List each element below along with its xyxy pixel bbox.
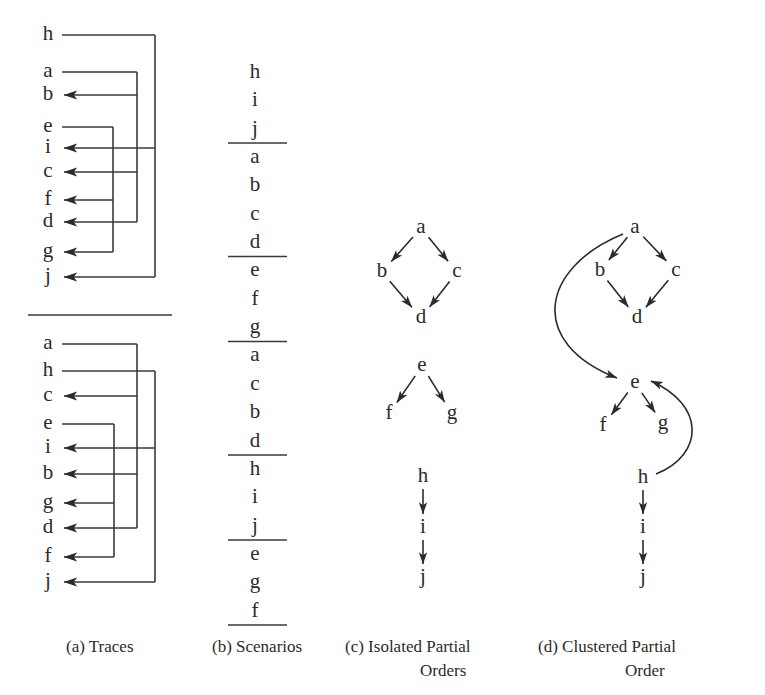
scenario-block-6: egf xyxy=(228,541,287,625)
edge-c-to-d xyxy=(646,280,668,307)
node-a: a xyxy=(630,214,640,238)
trace-event-h: h xyxy=(43,21,54,45)
edge-c-to-d xyxy=(430,282,450,308)
node-c: c xyxy=(671,257,680,281)
edge-a-to-c xyxy=(429,237,449,261)
trace-trace-2: ahceibgdfj xyxy=(43,330,155,592)
scenario-event-c: c xyxy=(250,201,259,225)
panel-isolated-partial-orders: abcdefghij xyxy=(377,214,462,588)
node-f: f xyxy=(600,412,607,436)
scenario-event-b: b xyxy=(250,172,261,196)
node-b: b xyxy=(377,258,388,282)
scenario-event-c: c xyxy=(250,371,259,395)
edge-b-to-d xyxy=(607,280,628,307)
caption-panel-d: (d) Clustered PartialOrder xyxy=(538,637,676,680)
graph-diamond-abcd: abcd xyxy=(377,214,462,328)
trace-event-e: e xyxy=(43,410,52,434)
graph-fork-efg: efg xyxy=(386,352,458,424)
trace-event-g: g xyxy=(43,489,54,513)
trace-trace-1: habeicfdgj xyxy=(43,21,155,287)
scenario-event-e: e xyxy=(250,541,259,565)
scenario-event-f: f xyxy=(252,286,259,310)
edge-e-to-f xyxy=(397,376,415,403)
node-g: g xyxy=(658,410,669,434)
caption-panel-c-line-1: (c) Isolated Partial xyxy=(345,637,471,656)
caption-panel-b-line-1: (b) Scenarios xyxy=(212,637,302,656)
node-h: h xyxy=(418,463,429,487)
edge-a-to-c xyxy=(643,237,666,261)
trace-event-d: d xyxy=(43,514,54,538)
node-d: d xyxy=(632,304,643,328)
node-j: j xyxy=(639,564,646,588)
figure-root: habeicfdgjahceibgdfj hijabcdefgacbdhijeg… xyxy=(0,0,765,695)
trace-event-f: f xyxy=(45,186,52,210)
trace-event-j: j xyxy=(44,568,51,592)
trace-event-g: g xyxy=(43,238,54,262)
trace-event-b: b xyxy=(43,460,54,484)
scenario-block-5: hij xyxy=(228,456,287,540)
caption-panel-d-line-2: Order xyxy=(625,661,665,680)
trace-event-b: b xyxy=(43,81,54,105)
trace-event-f: f xyxy=(45,543,52,567)
scenario-event-j: j xyxy=(251,513,258,537)
trace-message-e xyxy=(62,424,114,557)
trace-event-c: c xyxy=(43,158,52,182)
caption-panel-d-line-1: (d) Clustered Partial xyxy=(538,637,676,656)
node-i: i xyxy=(420,514,426,538)
scenario-event-d: d xyxy=(250,428,261,452)
scenario-event-a: a xyxy=(250,342,260,366)
figure-svg: habeicfdgjahceibgdfj hijabcdefgacbdhijeg… xyxy=(0,0,765,695)
panel-clustered-partial-order: abcdefghij xyxy=(555,214,692,588)
trace-event-j: j xyxy=(44,263,51,287)
trace-message-h xyxy=(62,371,155,582)
caption-panel-c: (c) Isolated PartialOrders xyxy=(345,637,471,680)
caption-panel-a: (a) Traces xyxy=(66,637,134,656)
trace-event-a: a xyxy=(43,330,53,354)
node-f: f xyxy=(386,400,393,424)
node-g: g xyxy=(447,400,458,424)
scenario-block-1: hij xyxy=(228,59,287,143)
scenario-event-f: f xyxy=(252,598,259,622)
edge-e-to-g xyxy=(428,376,444,402)
edge-e-to-g xyxy=(642,393,655,413)
panel-captions: (a) Traces(b) Scenarios(c) Isolated Part… xyxy=(66,637,676,680)
scenario-event-i: i xyxy=(252,87,258,111)
scenario-event-b: b xyxy=(250,399,261,423)
node-a: a xyxy=(416,214,426,238)
scenario-event-g: g xyxy=(250,569,261,593)
node-b: b xyxy=(595,257,606,281)
node-d: d xyxy=(416,304,427,328)
node-h: h xyxy=(638,464,649,488)
scenario-block-4: acbd xyxy=(228,342,287,455)
panel-scenarios: hijabcdefgacbdhijegf xyxy=(228,59,287,625)
scenario-event-h: h xyxy=(250,59,261,83)
trace-message-e xyxy=(62,127,113,252)
graph-clustered-order: abcdefghij xyxy=(555,214,692,588)
trace-event-a: a xyxy=(43,58,53,82)
scenario-block-2: abcd xyxy=(228,144,287,257)
trace-event-i: i xyxy=(45,134,51,158)
caption-panel-c-line-2: Orders xyxy=(420,661,466,680)
caption-panel-a-line-1: (a) Traces xyxy=(66,637,134,656)
scenario-event-e: e xyxy=(250,257,259,281)
scenario-event-i: i xyxy=(252,484,258,508)
scenario-event-g: g xyxy=(250,314,261,338)
edge-a-to-b xyxy=(609,237,628,260)
caption-panel-b: (b) Scenarios xyxy=(212,637,302,656)
node-i: i xyxy=(640,514,646,538)
scenario-event-j: j xyxy=(251,116,258,140)
trace-event-i: i xyxy=(45,434,51,458)
scenario-block-3: efg xyxy=(228,257,287,341)
scenario-event-h: h xyxy=(250,456,261,480)
node-j: j xyxy=(419,564,426,588)
trace-event-h: h xyxy=(43,357,54,381)
node-c: c xyxy=(452,258,461,282)
graph-chain-hij: hij xyxy=(418,463,429,588)
trace-event-c: c xyxy=(43,382,52,406)
node-e: e xyxy=(630,369,639,393)
trace-event-d: d xyxy=(43,208,54,232)
node-e: e xyxy=(417,352,426,376)
edge-a-to-b xyxy=(391,237,413,262)
scenario-event-d: d xyxy=(250,229,261,253)
scenario-event-a: a xyxy=(250,144,260,168)
